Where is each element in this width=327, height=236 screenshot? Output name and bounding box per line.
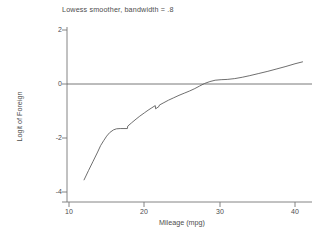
x-tick-label-10: 10 <box>59 208 79 215</box>
x-tick-marks <box>69 202 295 207</box>
x-axis-title: Mileage (mpg) <box>69 218 295 227</box>
x-tick-label-30: 30 <box>210 208 230 215</box>
y-tick-label-neg4: -4 <box>44 188 62 195</box>
y-tick-label-2: 2 <box>44 26 62 33</box>
x-tick-label-20: 20 <box>134 208 154 215</box>
x-tick-label-40: 40 <box>285 208 305 215</box>
y-axis-title: Logit of Foreign <box>15 77 24 157</box>
y-tick-label-0: 0 <box>44 80 62 87</box>
y-tick-label-neg2: -2 <box>44 134 62 141</box>
axes <box>62 27 312 202</box>
chart-container: Lowess smoother, bandwidth = .8 2 0 -2 -… <box>0 0 327 236</box>
y-tick-marks <box>62 30 67 192</box>
plot-area <box>0 0 327 236</box>
lowess-curve-line <box>84 62 302 180</box>
